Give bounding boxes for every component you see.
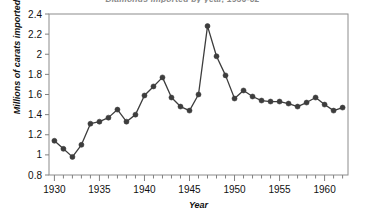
x-axis-major-ticks [54,175,324,181]
data-point [142,93,147,98]
data-point [259,98,264,103]
svg-text:0.8: 0.8 [28,170,42,181]
svg-text:1.2: 1.2 [28,129,42,140]
data-point [322,102,327,107]
data-point [169,95,174,100]
data-point [223,73,228,78]
data-point [295,104,300,109]
svg-text:1940: 1940 [133,184,156,195]
data-point [340,105,345,110]
data-point [277,99,282,104]
data-point [124,119,129,124]
svg-text:2.4: 2.4 [28,9,42,20]
svg-text:1935: 1935 [88,184,111,195]
line-chart-plot: 0.811.21.41.61.822.22.4 1930193519401945… [0,0,365,222]
data-point [79,142,84,147]
x-axis-tick-labels: 1930193519401945195019551960 [43,184,336,195]
y-axis-tick-labels: 0.811.21.41.61.822.22.4 [28,9,42,181]
data-point [268,99,273,104]
x-axis-title: Year [49,200,348,210]
data-point [70,154,75,159]
data-point [88,121,93,126]
svg-text:1: 1 [36,149,42,160]
data-point [151,84,156,89]
svg-text:1.4: 1.4 [28,109,42,120]
svg-text:1950: 1950 [223,184,246,195]
data-point [52,138,57,143]
data-point [286,101,291,106]
svg-text:1.8: 1.8 [28,69,42,80]
data-point [214,54,219,59]
data-point [160,75,165,80]
x-axis-minor-ticks [63,175,342,179]
data-point [304,100,309,105]
svg-text:2: 2 [36,49,42,60]
svg-text:1930: 1930 [43,184,66,195]
data-point [61,146,66,151]
svg-text:1955: 1955 [268,184,291,195]
data-point [178,104,183,109]
data-point [241,88,246,93]
data-point [196,92,201,97]
data-point [187,108,192,113]
chart-figure: Diamonds imported by year, 1930-62 Milli… [0,0,365,222]
y-axis-ticks [45,14,49,175]
svg-text:1.6: 1.6 [28,89,42,100]
data-point [97,119,102,124]
data-point [313,95,318,100]
svg-text:1945: 1945 [178,184,201,195]
data-point [133,112,138,117]
data-point [232,96,237,101]
data-point [115,107,120,112]
svg-text:1960: 1960 [313,184,336,195]
svg-text:2.2: 2.2 [28,29,42,40]
data-point [205,24,210,29]
data-point [331,108,336,113]
data-point [106,115,111,120]
data-point [250,94,255,99]
